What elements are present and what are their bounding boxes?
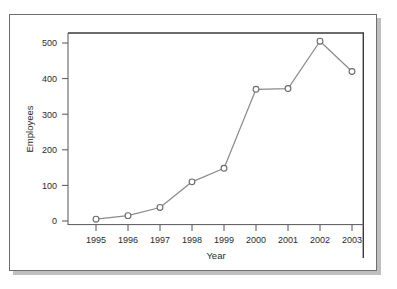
x-tick-label: 1997 — [150, 235, 170, 245]
y-axis-tick-labels: 500 400 300 200 100 0 — [42, 38, 57, 226]
figure-root: 500 400 300 200 100 0 Employees 1995 199… — [0, 0, 397, 289]
employees-line-chart: 500 400 300 200 100 0 Employees 1995 199… — [0, 0, 397, 289]
series-markers-employees — [93, 38, 355, 222]
y-axis-ticks — [62, 43, 68, 221]
x-axis-title: Year — [206, 250, 225, 261]
y-tick-label: 300 — [42, 110, 57, 120]
series-line-employees — [96, 41, 352, 219]
x-axis-ticks — [96, 225, 352, 231]
data-point-1997 — [157, 205, 163, 211]
y-tick-label: 500 — [42, 38, 57, 48]
y-axis-title: Employees — [24, 105, 35, 152]
x-axis-tick-labels: 1995 1996 1997 1998 1999 2000 2001 2002 … — [86, 235, 362, 245]
y-tick-label: 100 — [42, 181, 57, 191]
data-point-1995 — [93, 216, 99, 222]
x-tick-label: 1998 — [182, 235, 202, 245]
data-point-2003 — [349, 69, 355, 75]
x-tick-label: 2002 — [310, 235, 330, 245]
data-point-2001 — [285, 86, 291, 92]
data-point-2000 — [253, 86, 259, 92]
x-tick-label: 1996 — [118, 235, 138, 245]
data-point-1996 — [125, 213, 131, 219]
y-tick-label: 200 — [42, 145, 57, 155]
data-point-2002 — [317, 38, 323, 44]
x-tick-label: 2000 — [246, 235, 266, 245]
y-tick-label: 0 — [52, 216, 57, 226]
data-point-1999 — [221, 165, 227, 171]
x-tick-label: 2003 — [342, 235, 362, 245]
y-tick-label: 400 — [42, 74, 57, 84]
x-tick-label: 1995 — [86, 235, 106, 245]
x-tick-label: 2001 — [278, 235, 298, 245]
data-point-1998 — [189, 179, 195, 185]
x-tick-label: 1999 — [214, 235, 234, 245]
